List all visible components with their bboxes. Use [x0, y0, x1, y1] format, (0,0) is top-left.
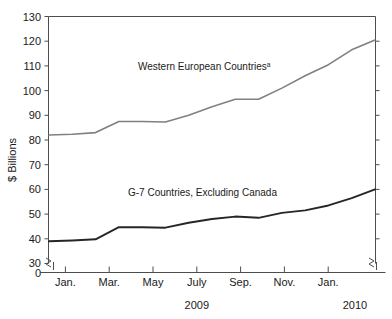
y-axis-ticks	[45, 17, 49, 264]
upper-series-label-text: Western European Countries	[138, 61, 267, 72]
y-tick-label: 90	[29, 109, 41, 121]
x-tick-label: Jan.	[55, 276, 76, 288]
y-axis-title: $ Billions	[6, 137, 18, 182]
year-label-2009: 2009	[185, 299, 209, 311]
year-label-2010: 2010	[343, 299, 367, 311]
y-tick-label-zero: 0	[35, 267, 41, 279]
series-line-western-european	[49, 40, 375, 135]
y-tick-label: 50	[29, 208, 41, 220]
y-axis-tick-labels: 130 120 110 100 90 80 70 60 50 40 30 0	[23, 11, 41, 279]
upper-series-label-superscript: a	[267, 61, 271, 68]
chart-figure: 130 120 110 100 90 80 70 60 50 40 30 0 $…	[0, 0, 392, 319]
x-axis-ticks	[65, 267, 328, 273]
x-tick-label: Nov.	[273, 276, 295, 288]
right-axis-ticks	[376, 41, 380, 239]
plot-frame	[41, 17, 386, 273]
y-tick-label: 100	[23, 85, 41, 97]
y-tick-label: 80	[29, 134, 41, 146]
x-tick-label: Sep.	[229, 276, 252, 288]
y-tick-label: 70	[29, 159, 41, 171]
x-tick-label: Mar.	[98, 276, 119, 288]
series-annotation-western-european: Western European Countriesa	[138, 61, 271, 73]
line-chart: 130 120 110 100 90 80 70 60 50 40 30 0 $…	[0, 0, 392, 319]
x-tick-label: Jan.	[318, 276, 339, 288]
svg-text:Western European Countriesa: Western European Countriesa	[138, 61, 271, 73]
y-tick-label: 110	[23, 60, 41, 72]
lower-series-label-text: G-7 Countries, Excluding Canada	[128, 187, 277, 198]
y-tick-label: 60	[29, 183, 41, 195]
x-tick-label: May	[143, 276, 164, 288]
y-tick-label: 120	[23, 35, 41, 47]
y-tick-label: 130	[23, 11, 41, 23]
series-annotation-g7-excluding-canada: G-7 Countries, Excluding Canada	[128, 187, 277, 198]
y-tick-label: 40	[29, 233, 41, 245]
x-axis-tick-labels: Jan. Mar. May July Sep. Nov. Jan.	[55, 276, 339, 288]
x-axis-year-labels: 2009 2010	[185, 299, 368, 311]
x-tick-label: July	[187, 276, 207, 288]
